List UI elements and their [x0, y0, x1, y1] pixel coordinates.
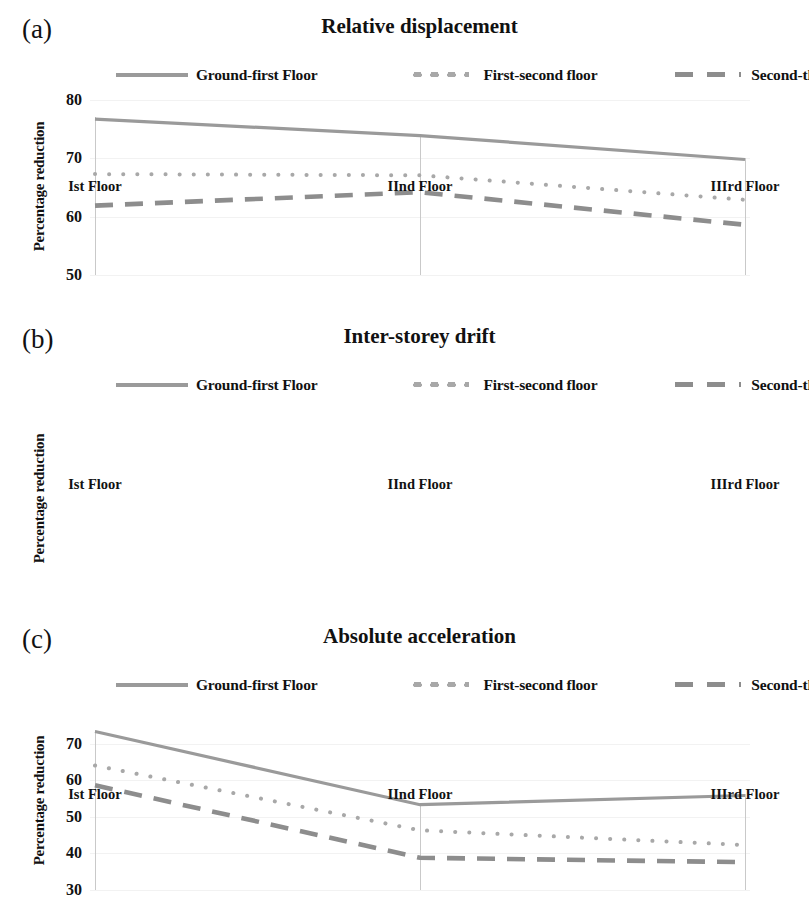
legend-item-first-second[interactable]: First-second floor	[403, 66, 597, 84]
legend-key-dashed-icon	[671, 68, 743, 82]
legend-a: Ground-first Floor First-second floor Se…	[110, 62, 770, 88]
x-axis-tick: IIIrd Floor	[711, 476, 780, 493]
legend-item-second-third[interactable]: Second-third floor	[671, 676, 809, 694]
legend-item-ground-first[interactable]: Ground-first Floor	[116, 376, 317, 394]
chart-panel-b: (b) Inter-storey drift Ground-first Floo…	[0, 310, 809, 610]
legend-key-dotted-icon	[403, 678, 475, 692]
x-axis-tick: Ist Floor	[68, 786, 122, 803]
chart-panel-a: (a) Relative displacement Ground-first F…	[0, 0, 809, 310]
legend-label-ground-first: Ground-first Floor	[196, 376, 317, 394]
x-axis-tick: IIIrd Floor	[711, 178, 780, 195]
panel-title-c: Absolute acceleration	[0, 624, 809, 649]
legend-item-first-second[interactable]: First-second floor	[403, 376, 597, 394]
legend-label-ground-first: Ground-first Floor	[196, 66, 317, 84]
legend-key-dashed-icon	[671, 678, 743, 692]
panel-title-a: Relative displacement	[0, 14, 809, 39]
legend-label-second-third: Second-third floor	[751, 66, 809, 84]
x-axis-tick: IInd Floor	[388, 786, 453, 803]
legend-label-first-second: First-second floor	[483, 66, 597, 84]
legend-label-ground-first: Ground-first Floor	[196, 676, 317, 694]
x-axis-tick: IIIrd Floor	[711, 786, 780, 803]
x-axis-tick: IInd Floor	[388, 178, 453, 195]
legend-item-second-third[interactable]: Second-third floor	[671, 66, 809, 84]
legend-item-ground-first[interactable]: Ground-first Floor	[116, 66, 317, 84]
panel-title-b: Inter-storey drift	[0, 324, 809, 349]
gridline	[90, 275, 750, 276]
x-axis-tick: Ist Floor	[68, 476, 122, 493]
legend-key-dotted-icon	[403, 378, 475, 392]
legend-label-second-third: Second-third floor	[751, 376, 809, 394]
chart-panel-c: (c) Absolute acceleration Ground-first F…	[0, 610, 809, 915]
legend-item-ground-first[interactable]: Ground-first Floor	[116, 676, 317, 694]
y-axis-label-a: Percentage reduction	[31, 92, 48, 282]
legend-key-dashed-icon	[671, 378, 743, 392]
legend-key-dotted-icon	[403, 68, 475, 82]
legend-label-second-third: Second-third floor	[751, 676, 809, 694]
legend-b: Ground-first Floor First-second floor Se…	[110, 372, 770, 398]
legend-item-second-third[interactable]: Second-third floor	[671, 376, 809, 394]
y-axis-tick: 60	[66, 208, 82, 226]
figure-root: (a) Relative displacement Ground-first F…	[0, 0, 809, 915]
legend-key-solid-icon	[116, 678, 188, 692]
legend-item-first-second[interactable]: First-second floor	[403, 676, 597, 694]
x-axis-tick: IInd Floor	[388, 476, 453, 493]
legend-label-first-second: First-second floor	[483, 376, 597, 394]
series-line-solid	[95, 119, 745, 159]
legend-c: Ground-first Floor First-second floor Se…	[110, 672, 770, 698]
x-axis-tick: Ist Floor	[68, 178, 122, 195]
y-axis-tick: 50	[66, 266, 82, 284]
y-axis-label-b: Percentage reduction	[31, 404, 48, 594]
series-line-dashed	[95, 192, 745, 225]
y-axis-tick: 80	[66, 91, 82, 109]
y-axis-tick: 70	[66, 149, 82, 167]
legend-key-solid-icon	[116, 378, 188, 392]
legend-key-solid-icon	[116, 68, 188, 82]
y-axis-label-c: Percentage reduction	[31, 706, 48, 896]
legend-label-first-second: First-second floor	[483, 676, 597, 694]
